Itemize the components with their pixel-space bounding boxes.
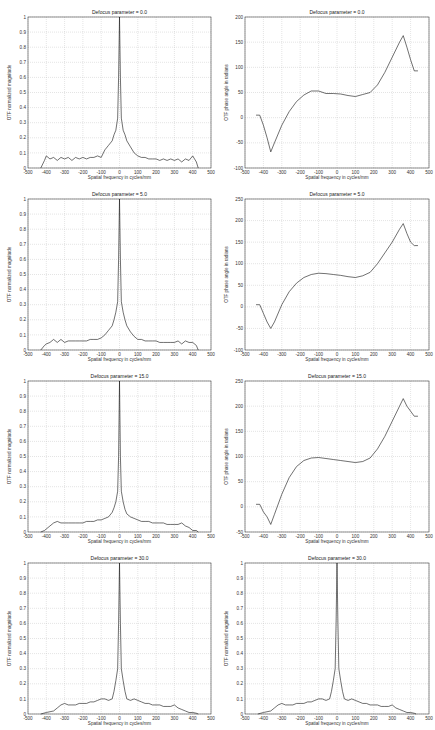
svg-text:0.1: 0.1	[20, 515, 27, 520]
y-axis-label: OTF normalized magnitude	[7, 610, 12, 666]
x-axis-label: Spatial frequency in cycles/mm	[88, 175, 151, 180]
svg-text:50: 50	[238, 90, 244, 95]
svg-text:0.3: 0.3	[20, 302, 27, 307]
svg-text:0: 0	[240, 504, 243, 509]
svg-text:1: 1	[23, 561, 26, 566]
y-axis-label: OTF normalized magnitude	[224, 610, 229, 666]
svg-text:300: 300	[171, 716, 179, 721]
x-axis-label: Spatial frequency in cycles/mm	[305, 357, 368, 362]
y-tick-labels: 00.10.20.30.40.50.60.70.80.91	[237, 561, 244, 717]
svg-text:0.8: 0.8	[20, 591, 27, 596]
svg-text:400: 400	[189, 170, 197, 175]
svg-text:100: 100	[235, 65, 243, 70]
svg-text:500: 500	[207, 534, 215, 539]
svg-text:200: 200	[235, 15, 243, 20]
svg-text:0.5: 0.5	[237, 636, 244, 641]
svg-text:400: 400	[189, 534, 197, 539]
svg-text:300: 300	[388, 352, 396, 357]
svg-text:0.7: 0.7	[20, 242, 27, 247]
svg-text:-100: -100	[97, 170, 107, 175]
y-tick-labels: -100-50050100150200250	[234, 197, 244, 353]
svg-text:0.5: 0.5	[20, 272, 27, 277]
svg-text:200: 200	[235, 404, 243, 409]
svg-text:0.8: 0.8	[20, 45, 27, 50]
svg-text:400: 400	[407, 352, 415, 357]
svg-text:0.8: 0.8	[20, 227, 27, 232]
svg-text:500: 500	[425, 716, 433, 721]
svg-text:0: 0	[240, 304, 243, 309]
svg-text:-100: -100	[314, 352, 324, 357]
svg-text:0.5: 0.5	[20, 636, 27, 641]
svg-text:0.1: 0.1	[20, 697, 27, 702]
y-axis-label: OTF phase angle in radians	[224, 427, 229, 484]
svg-text:0: 0	[23, 348, 26, 353]
svg-text:0: 0	[240, 115, 243, 120]
svg-text:50: 50	[238, 283, 244, 288]
svg-text:100: 100	[134, 534, 142, 539]
svg-text:300: 300	[388, 534, 396, 539]
svg-text:0.6: 0.6	[20, 75, 27, 80]
svg-text:200: 200	[370, 716, 378, 721]
y-axis-label: OTF phase angle in radians	[224, 245, 229, 302]
svg-text:200: 200	[370, 170, 378, 175]
svg-text:400: 400	[407, 716, 415, 721]
svg-text:-400: -400	[42, 716, 52, 721]
svg-text:-200: -200	[78, 534, 88, 539]
svg-text:0.9: 0.9	[237, 576, 244, 581]
y-axis-label: OTF normalized magnitude	[7, 64, 12, 120]
svg-text:0.1: 0.1	[20, 151, 27, 156]
svg-text:150: 150	[235, 240, 243, 245]
svg-text:-200: -200	[296, 170, 306, 175]
svg-text:100: 100	[352, 170, 360, 175]
chart-panel-mag_15: -500-400-300-200-100010020030040050000.1…	[0, 364, 217, 546]
chart-title: Defocus parameter = 0.0	[309, 9, 364, 15]
svg-text:300: 300	[388, 716, 396, 721]
svg-text:500: 500	[207, 716, 215, 721]
chart-title: Defocus parameter = 15.0	[308, 373, 366, 379]
svg-text:0: 0	[336, 170, 339, 175]
svg-text:1: 1	[23, 197, 26, 202]
svg-text:100: 100	[352, 716, 360, 721]
svg-text:0.5: 0.5	[20, 454, 27, 459]
svg-text:-50: -50	[236, 530, 243, 535]
svg-text:0.3: 0.3	[20, 484, 27, 489]
svg-text:0.6: 0.6	[20, 257, 27, 262]
svg-text:0.4: 0.4	[237, 651, 244, 656]
svg-text:300: 300	[171, 534, 179, 539]
svg-text:100: 100	[352, 534, 360, 539]
svg-text:0: 0	[336, 352, 339, 357]
svg-text:-100: -100	[234, 348, 244, 353]
svg-text:250: 250	[235, 197, 243, 202]
x-axis-label: Spatial frequency in cycles/mm	[88, 357, 151, 362]
x-tick-labels: -500-400-300-200-1000100200300400500	[240, 170, 433, 175]
svg-text:0.7: 0.7	[20, 60, 27, 65]
svg-text:-300: -300	[60, 352, 70, 357]
svg-text:400: 400	[189, 352, 197, 357]
x-axis-label: Spatial frequency in cycles/mm	[305, 721, 368, 726]
svg-text:400: 400	[189, 716, 197, 721]
chart-title: Defocus parameter = 5.0	[92, 191, 147, 197]
svg-text:-50: -50	[236, 140, 243, 145]
x-tick-labels: -500-400-300-200-1000100200300400500	[240, 352, 433, 357]
svg-text:400: 400	[407, 534, 415, 539]
svg-text:200: 200	[152, 352, 160, 357]
svg-text:-100: -100	[314, 716, 324, 721]
x-tick-labels: -500-400-300-200-1000100200300400500	[240, 534, 433, 539]
svg-text:200: 200	[370, 534, 378, 539]
chart-panel-mag_30_b: -500-400-300-200-100010020030040050000.1…	[217, 546, 435, 728]
svg-text:0: 0	[23, 166, 26, 171]
svg-text:0.2: 0.2	[20, 499, 27, 504]
svg-text:-300: -300	[60, 170, 70, 175]
svg-text:-100: -100	[234, 166, 244, 171]
svg-text:1: 1	[240, 561, 243, 566]
svg-text:0: 0	[240, 712, 243, 717]
svg-text:0.8: 0.8	[20, 409, 27, 414]
svg-text:-100: -100	[314, 170, 324, 175]
svg-text:0: 0	[118, 352, 121, 357]
y-tick-labels: -50050100150200250	[235, 379, 243, 535]
chart-panel-mag_0: -500-400-300-200-100010020030040050000.1…	[0, 0, 217, 182]
x-tick-labels: -500-400-300-200-1000100200300400500	[240, 716, 433, 721]
svg-text:0.7: 0.7	[20, 424, 27, 429]
svg-text:0: 0	[118, 716, 121, 721]
svg-text:-400: -400	[259, 716, 269, 721]
